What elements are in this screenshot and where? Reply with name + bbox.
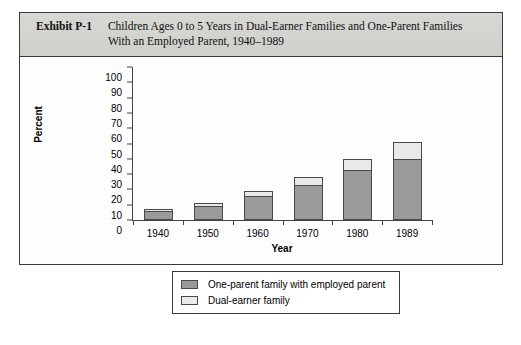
x-axis-label: Year [132,243,432,254]
stacked-bar[interactable] [194,203,223,220]
x-axis-tick-mark [283,220,284,225]
stacked-bar[interactable] [144,209,173,220]
stacked-bar[interactable] [244,191,273,220]
exhibit-panel: Exhibit P-1 Children Ages 0 to 5 Years i… [19,12,503,265]
y-axis-tick-mark [127,143,132,144]
y-axis-tick-mark [127,112,132,113]
y-axis-label: Percent [33,85,44,165]
x-axis-tick-mark [233,220,234,225]
bar-segment-one-parent [343,170,372,220]
y-axis-tick-label: 100 [105,72,122,83]
y-axis-tick-label: 70 [111,117,122,128]
y-axis-ticks: 0102030405060708090100 [96,67,126,219]
y-axis-tick-label: 90 [111,87,122,98]
plot-area [133,67,432,220]
x-axis-tick-mark [183,220,184,225]
bar-segment-one-parent [294,185,323,220]
exhibit-label: Exhibit P-1 [36,19,92,32]
legend-label: Dual-earner family [208,295,290,306]
y-axis-tick-label: 0 [116,225,122,236]
legend-swatch [181,280,198,289]
bar-group [382,67,432,220]
stacked-bar[interactable] [393,142,422,220]
bar-group [332,67,382,220]
stacked-bar[interactable] [343,159,372,220]
stacked-bar-chart: Percent 0102030405060708090100 Year 1940… [20,57,502,264]
y-axis-tick-mark [127,189,132,190]
y-axis-tick-label: 30 [111,179,122,190]
y-axis-tick-mark [127,67,132,68]
exhibit-header: Exhibit P-1 Children Ages 0 to 5 Years i… [20,13,502,57]
x-axis-tick-mark [332,220,333,225]
y-axis-tick-mark [127,97,132,98]
bar-group [283,67,333,220]
y-axis-tick-label: 50 [111,148,122,159]
chart-body: Percent 0102030405060708090100 Year 1940… [20,57,502,264]
y-axis-tick-mark [127,174,132,175]
bar-segment-dual-earner [343,159,372,170]
legend-item[interactable]: Dual-earner family [181,292,391,308]
bar-segment-one-parent [194,206,223,220]
y-axis-tick-mark [127,128,132,129]
x-axis-tick-label: 1989 [377,228,437,239]
x-axis-tick-mark [432,220,433,225]
legend-swatch [181,296,198,305]
bar-group [233,67,283,220]
bar-group [133,67,183,220]
y-axis-tick-label: 60 [111,133,122,144]
bar-segment-dual-earner [393,142,422,159]
bar-segment-dual-earner [294,177,323,185]
y-axis-tick-label: 40 [111,163,122,174]
legend-item[interactable]: One-parent family with employed parent [181,276,391,292]
legend-label: One-parent family with employed parent [208,279,385,290]
x-axis-tick-mark [382,220,383,225]
x-axis-tick-mark [133,220,134,225]
y-axis-tick-label: 10 [111,209,122,220]
y-axis-tick-label: 80 [111,102,122,113]
y-axis-tick-mark [127,158,132,159]
bar-segment-one-parent [144,211,173,220]
y-axis-tick-mark [127,204,132,205]
stacked-bar[interactable] [294,177,323,220]
bar-segment-one-parent [244,196,273,220]
y-axis-tick-label: 20 [111,194,122,205]
chart-legend: One-parent family with employed parentDu… [172,271,400,314]
bar-segment-one-parent [393,159,422,220]
y-axis-tick-mark [127,82,132,83]
exhibit-title: Children Ages 0 to 5 Years in Dual-Earne… [108,19,480,49]
bar-group [183,67,233,220]
y-axis-tick-mark [127,220,132,221]
